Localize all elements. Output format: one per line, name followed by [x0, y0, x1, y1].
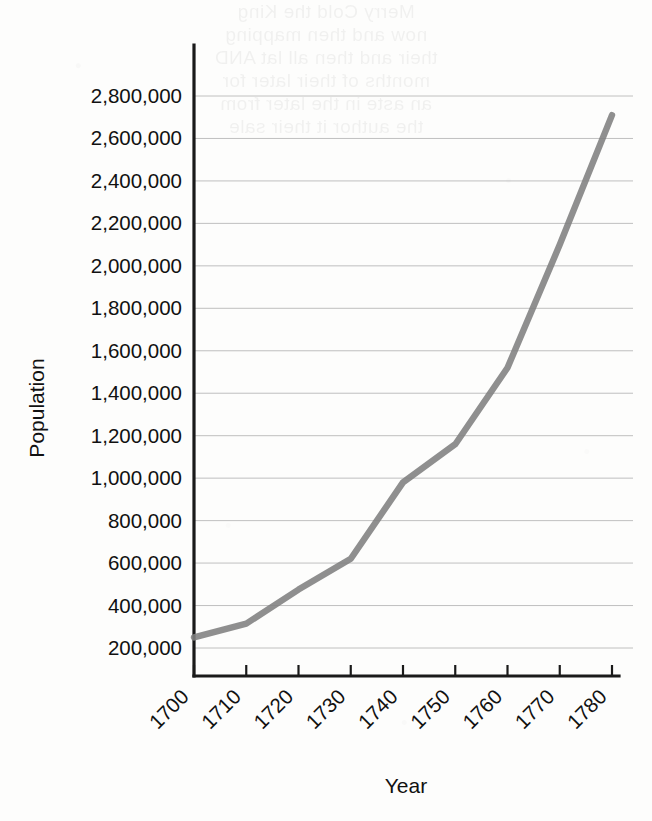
- y-axis-tick-label: 1,600,000: [91, 339, 182, 362]
- x-axis-tick-label: 1710: [197, 685, 246, 734]
- x-axis-tick-label: 1780: [562, 685, 611, 734]
- x-axis-tick-labels: 170017101720173017401750176017701780: [144, 685, 611, 734]
- y-axis-tick-label: 400,000: [108, 594, 182, 617]
- y-axis-tick-label: 800,000: [108, 509, 182, 532]
- x-axis-tick-marks: [194, 665, 612, 676]
- x-axis-title: Year: [385, 774, 427, 797]
- x-axis-tick-label: 1770: [510, 685, 559, 734]
- population-line-chart: 200,000400,000600,000800,0001,000,0001,2…: [0, 0, 652, 821]
- y-axis-title: Population: [25, 358, 48, 457]
- x-axis-tick-label: 1730: [301, 685, 350, 734]
- y-axis-tick-label: 2,600,000: [91, 126, 182, 149]
- y-axis-tick-label: 1,200,000: [91, 424, 182, 447]
- y-axis-tick-label: 600,000: [108, 551, 182, 574]
- y-axis-tick-label: 1,400,000: [91, 381, 182, 404]
- x-axis-tick-label: 1740: [353, 685, 402, 734]
- gridlines: [194, 96, 633, 648]
- x-axis-tick-label: 1720: [249, 685, 298, 734]
- chart-page: Merry Cold the King now and then mapping…: [0, 0, 652, 821]
- x-axis-tick-label: 1700: [144, 685, 193, 734]
- population-series-line: [194, 115, 612, 637]
- y-axis-tick-label: 2,200,000: [91, 211, 182, 234]
- y-axis-tick-label: 1,000,000: [91, 466, 182, 489]
- y-axis-tick-label: 2,400,000: [91, 169, 182, 192]
- x-axis-tick-label: 1750: [406, 685, 455, 734]
- x-axis-tick-label: 1760: [458, 685, 507, 734]
- y-axis-tick-label: 200,000: [108, 636, 182, 659]
- y-axis-tick-labels: 200,000400,000600,000800,0001,000,0001,2…: [91, 84, 182, 659]
- y-axis-tick-label: 2,800,000: [91, 84, 182, 107]
- y-axis-tick-label: 1,800,000: [91, 296, 182, 319]
- y-axis-tick-label: 2,000,000: [91, 254, 182, 277]
